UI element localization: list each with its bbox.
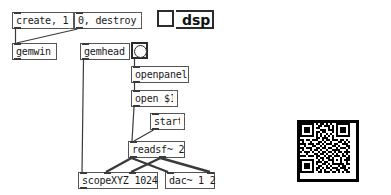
outlet-nub xyxy=(133,105,140,107)
object-box-gemwin-label: gemwin xyxy=(16,46,51,57)
inlet-nub xyxy=(152,113,159,115)
wire-destroy-to-gemwin xyxy=(17,29,78,43)
inlet-nub xyxy=(130,141,137,143)
object-box-readsf[interactable]: readsf~ 2 xyxy=(128,141,185,158)
object-box-gemwin[interactable]: gemwin xyxy=(12,43,57,60)
outlet-nub-right xyxy=(159,156,166,158)
object-box-readsf-label: readsf~ 2 xyxy=(132,144,184,155)
inlet-nub xyxy=(133,90,140,92)
object-box-dac-label: dac~ 1 2 xyxy=(169,175,216,186)
message-box-start-label: start xyxy=(154,116,183,127)
message-box-start[interactable]: start xyxy=(150,113,185,130)
outlet-nub xyxy=(14,27,21,29)
dsp-toggle[interactable] xyxy=(157,10,174,27)
message-box-open-label: open $1 xyxy=(135,93,176,104)
inlet-nub-0 xyxy=(167,172,174,174)
inlet-nub xyxy=(14,43,21,45)
wire-readsf1-to-dac-right xyxy=(161,158,211,172)
message-box-destroy[interactable]: 0, destroy xyxy=(74,12,142,29)
message-box-destroy-label: 0, destroy xyxy=(78,15,136,26)
inlet-nub-1 xyxy=(207,172,214,174)
object-box-scopexyz[interactable]: scopeXYZ 1024 xyxy=(78,172,158,189)
wire-readsf0-to-scope xyxy=(106,158,132,172)
object-box-openpanel-label: openpanel xyxy=(135,69,187,80)
object-box-scopexyz-label: scopeXYZ 1024 xyxy=(82,175,158,186)
dsp-label: dsp xyxy=(176,10,214,29)
outlet-nub-left xyxy=(130,156,137,158)
bang-icon[interactable] xyxy=(131,42,148,59)
inlet-nub xyxy=(76,12,83,14)
object-box-gemhead[interactable]: gemhead xyxy=(80,43,130,60)
inlet-nub-2 xyxy=(129,172,136,174)
outlet-nub xyxy=(14,58,21,60)
message-box-open[interactable]: open $1 xyxy=(131,90,178,107)
inlet-nub-0 xyxy=(80,172,87,174)
qr-code-image xyxy=(297,120,359,182)
outlet-nub xyxy=(82,58,89,60)
wire-open-to-readsf xyxy=(132,107,134,141)
inlet-nub xyxy=(82,43,89,45)
wire-start-to-readsf xyxy=(134,130,154,141)
outlet-nub xyxy=(152,128,159,130)
message-box-create-label: create, 1 xyxy=(16,15,68,26)
object-box-dac[interactable]: dac~ 1 2 xyxy=(165,172,215,189)
outlet-nub xyxy=(80,187,87,189)
object-box-openpanel[interactable]: openpanel xyxy=(131,66,189,83)
inlet-nub-1 xyxy=(104,172,111,174)
outlet-nub xyxy=(76,27,83,29)
pd-patch-canvas: create, 1 0, destroy dsp gemwin gemhead … xyxy=(0,0,391,195)
inlet-nub xyxy=(133,66,140,68)
inlet-nub xyxy=(14,12,21,14)
outlet-nub xyxy=(133,81,140,83)
bang-circle-icon xyxy=(134,45,147,58)
object-box-gemhead-label: gemhead xyxy=(84,46,125,57)
wire-gemhead-to-scope xyxy=(82,60,84,172)
dsp-label-text: dsp xyxy=(182,12,210,28)
message-box-create[interactable]: create, 1 xyxy=(12,12,74,29)
